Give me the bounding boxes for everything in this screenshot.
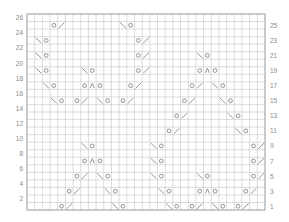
- yarn-over-icon: [236, 114, 240, 118]
- yarn-over-icon: [159, 144, 163, 148]
- k2tog-icon: [258, 143, 264, 149]
- k2tog-icon: [197, 83, 203, 89]
- yarn-over-icon: [206, 54, 210, 58]
- yarn-over-icon: [60, 99, 64, 103]
- k2tog-icon: [143, 38, 149, 44]
- yarn-over-icon: [106, 174, 110, 178]
- row-number-left: 18: [16, 75, 24, 82]
- k2tog-icon: [59, 23, 65, 29]
- ssk-icon: [97, 173, 103, 179]
- k2tog-icon: [243, 203, 249, 209]
- k2tog-icon: [258, 173, 264, 179]
- yarn-over-icon: [121, 99, 125, 103]
- k2tog-icon: [143, 68, 149, 74]
- ssk-icon: [151, 173, 157, 179]
- yarn-over-icon: [98, 84, 102, 88]
- ssk-icon: [82, 68, 88, 74]
- yarn-over-icon: [129, 84, 133, 88]
- row-number-right: 23: [270, 37, 278, 44]
- yarn-over-icon: [136, 69, 140, 73]
- k2tog-icon: [135, 83, 141, 89]
- yarn-over-icon: [167, 189, 171, 193]
- yarn-over-icon: [90, 69, 94, 73]
- yarn-over-icon: [167, 129, 171, 133]
- k2tog-icon: [251, 188, 257, 194]
- row-number-right: 7: [270, 158, 274, 165]
- yarn-over-icon: [136, 54, 140, 58]
- k2tog-icon: [82, 98, 88, 104]
- knitting-chart: 2624222018161412108642252321191715131197…: [0, 0, 289, 222]
- yarn-over-icon: [252, 144, 256, 148]
- row-number-left: 16: [16, 90, 24, 97]
- yarn-over-icon: [106, 99, 110, 103]
- ssk-icon: [166, 203, 172, 209]
- row-number-left: 2: [19, 195, 23, 202]
- row-number-right: 19: [270, 67, 278, 74]
- yarn-over-icon: [182, 99, 186, 103]
- ssk-icon: [159, 188, 165, 194]
- k2tog-icon: [258, 158, 264, 164]
- yarn-over-icon: [198, 69, 202, 73]
- k2tog-icon: [128, 98, 134, 104]
- ssk-icon: [212, 203, 218, 209]
- row-number-left: 6: [19, 165, 23, 172]
- ssk-icon: [228, 113, 234, 119]
- yarn-over-icon: [221, 204, 225, 208]
- yarn-over-icon: [129, 23, 133, 27]
- row-number-left: 8: [19, 150, 23, 157]
- ssk-icon: [105, 188, 111, 194]
- k2tog-icon: [66, 203, 72, 209]
- row-number-left: 24: [16, 29, 24, 36]
- yarn-over-icon: [252, 159, 256, 163]
- yarn-over-icon: [52, 23, 56, 27]
- k2tog-icon: [143, 53, 149, 59]
- ssk-icon: [151, 143, 157, 149]
- row-number-right: 9: [270, 142, 274, 149]
- row-number-right: 5: [270, 173, 274, 180]
- yarn-over-icon: [60, 204, 64, 208]
- yarn-over-icon: [213, 69, 217, 73]
- yarn-over-icon: [83, 159, 87, 163]
- double-decrease-icon: [205, 68, 209, 73]
- yarn-over-icon: [90, 144, 94, 148]
- chart-grid: 2624222018161412108642252321191715131197…: [0, 0, 289, 222]
- yarn-over-icon: [44, 69, 48, 73]
- ssk-icon: [97, 98, 103, 104]
- double-decrease-icon: [90, 83, 94, 88]
- row-number-left: 4: [19, 180, 23, 187]
- yarn-over-icon: [44, 54, 48, 58]
- yarn-over-icon: [67, 189, 71, 193]
- ssk-icon: [43, 83, 49, 89]
- yarn-over-icon: [175, 114, 179, 118]
- yarn-over-icon: [244, 189, 248, 193]
- ssk-icon: [120, 23, 126, 29]
- row-number-right: 1: [270, 203, 274, 210]
- row-number-left: 20: [16, 60, 24, 67]
- ssk-icon: [151, 158, 157, 164]
- yarn-over-icon: [221, 84, 225, 88]
- yarn-over-icon: [121, 204, 125, 208]
- row-number-right: 11: [270, 127, 277, 134]
- k2tog-icon: [182, 113, 188, 119]
- yarn-over-icon: [98, 159, 102, 163]
- ssk-icon: [197, 173, 203, 179]
- yarn-over-icon: [236, 204, 240, 208]
- row-number-right: 25: [270, 22, 278, 29]
- row-number-right: 17: [270, 82, 278, 89]
- k2tog-icon: [189, 98, 195, 104]
- row-number-right: 21: [270, 52, 278, 59]
- yarn-over-icon: [44, 38, 48, 42]
- yarn-over-icon: [159, 159, 163, 163]
- ssk-icon: [36, 68, 42, 74]
- yarn-over-icon: [175, 204, 179, 208]
- yarn-over-icon: [206, 174, 210, 178]
- row-number-left: 14: [16, 105, 24, 112]
- yarn-over-icon: [229, 99, 233, 103]
- yarn-over-icon: [244, 129, 248, 133]
- yarn-over-icon: [190, 84, 194, 88]
- ssk-icon: [36, 53, 42, 59]
- ssk-icon: [82, 143, 88, 149]
- ssk-icon: [197, 53, 203, 59]
- yarn-over-icon: [75, 99, 79, 103]
- yarn-over-icon: [190, 204, 194, 208]
